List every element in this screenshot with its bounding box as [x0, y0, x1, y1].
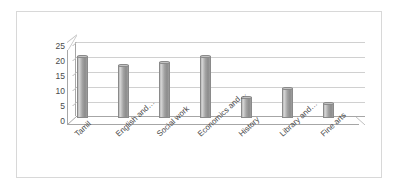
bar-economics-and[interactable] — [200, 56, 211, 118]
chart-frame: 25 20 15 10 5 0 — [16, 11, 382, 178]
y-tick-label-20: 20 — [43, 57, 65, 66]
bar-top-cap — [282, 87, 293, 90]
bar-slot-fine-arts — [323, 42, 361, 118]
bar-english-and[interactable] — [118, 65, 129, 118]
y-axis: 25 20 15 10 5 0 — [39, 42, 65, 128]
bar-social-work[interactable] — [159, 62, 170, 118]
bar-fine-arts[interactable] — [323, 103, 334, 118]
y-tick-label-25: 25 — [43, 42, 65, 51]
bar-top-cap — [77, 55, 88, 58]
bar-slot-social-work — [159, 42, 197, 118]
bar-top-cap — [200, 55, 211, 58]
bar-tamil[interactable] — [77, 56, 88, 118]
bar-slot-tamil — [77, 42, 115, 118]
x-axis: Tamil English and… Social work Economics… — [67, 125, 377, 185]
y-tick-label-10: 10 — [43, 87, 65, 96]
bar-top-cap — [118, 64, 129, 67]
bar-top-cap — [159, 61, 170, 64]
bar-top-cap — [323, 102, 334, 105]
y-tick-label-15: 15 — [43, 72, 65, 81]
x-tick-fine-arts: Fine arts — [319, 125, 399, 143]
bar-slot-history — [241, 42, 279, 118]
y-tick-label-5: 5 — [43, 102, 65, 111]
chart-container: 25 20 15 10 5 0 — [0, 0, 401, 189]
bar-library-and[interactable] — [282, 88, 293, 118]
y-tick-label-0: 0 — [43, 117, 65, 126]
